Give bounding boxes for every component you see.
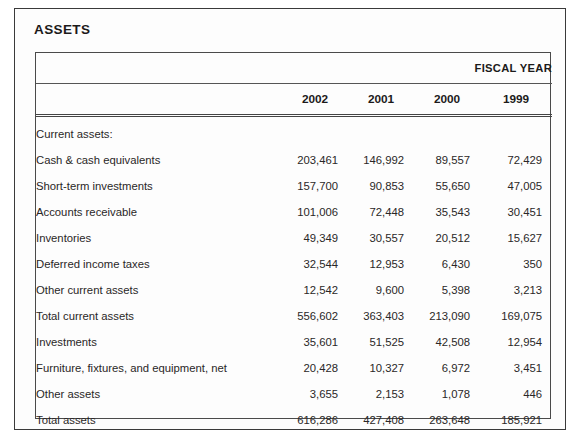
page-frame: ASSETS FISCAL YEAR 2002 2001 2000 bbox=[14, 8, 566, 430]
table-row: Total current assets556,602363,403213,09… bbox=[36, 303, 552, 329]
row-label: Total assets bbox=[36, 407, 282, 433]
assets-table-frame: FISCAL YEAR 2002 2001 2000 1999 Current … bbox=[35, 52, 551, 419]
column-header-2001: 2001 bbox=[348, 84, 414, 116]
row-label: Investments bbox=[36, 329, 282, 355]
cell-2000: 35,543 bbox=[414, 199, 480, 225]
column-header-2000: 2000 bbox=[414, 84, 480, 116]
table-row: Deferred income taxes32,54412,9536,43035… bbox=[36, 251, 552, 277]
table-row: Other assets3,6552,1531,078446 bbox=[36, 381, 552, 407]
cell-2002: 101,006 bbox=[282, 199, 348, 225]
cell-1999: 3,451 bbox=[480, 355, 552, 381]
table-row: Furniture, fixtures, and equipment, net2… bbox=[36, 355, 552, 381]
row-label: Short-term investments bbox=[36, 173, 282, 199]
cell-2002: 556,602 bbox=[282, 303, 348, 329]
cell-2002 bbox=[282, 116, 348, 148]
cell-1999: 12,954 bbox=[480, 329, 552, 355]
cell-2002: 32,544 bbox=[282, 251, 348, 277]
cell-2002: 3,655 bbox=[282, 381, 348, 407]
cell-2002: 35,601 bbox=[282, 329, 348, 355]
table-row: Total assets616,286427,408263,648185,921 bbox=[36, 407, 552, 433]
fiscal-year-label: FISCAL YEAR bbox=[282, 53, 552, 84]
cell-2002: 616,286 bbox=[282, 407, 348, 433]
row-label: Deferred income taxes bbox=[36, 251, 282, 277]
page-title: ASSETS bbox=[34, 22, 90, 37]
cell-2000 bbox=[414, 116, 480, 148]
row-label: Accounts receivable bbox=[36, 199, 282, 225]
cell-2000: 20,512 bbox=[414, 225, 480, 251]
table-row: Accounts receivable101,00672,44835,54330… bbox=[36, 199, 552, 225]
cell-2001: 2,153 bbox=[348, 381, 414, 407]
cell-2000: 263,648 bbox=[414, 407, 480, 433]
row-label: Cash & cash equivalents bbox=[36, 147, 282, 173]
cell-2002: 20,428 bbox=[282, 355, 348, 381]
column-header-1999: 1999 bbox=[480, 84, 552, 116]
row-label: Total current assets bbox=[36, 303, 282, 329]
row-label: Other current assets bbox=[36, 277, 282, 303]
cell-2001: 51,525 bbox=[348, 329, 414, 355]
table-header: FISCAL YEAR 2002 2001 2000 1999 bbox=[36, 53, 552, 116]
row-label: Furniture, fixtures, and equipment, net bbox=[36, 355, 282, 381]
assets-table: FISCAL YEAR 2002 2001 2000 1999 Current … bbox=[36, 53, 552, 433]
cell-2000: 1,078 bbox=[414, 381, 480, 407]
cell-2001: 12,953 bbox=[348, 251, 414, 277]
column-header-2002: 2002 bbox=[282, 84, 348, 116]
cell-2000: 6,972 bbox=[414, 355, 480, 381]
year-header-row: 2002 2001 2000 1999 bbox=[36, 84, 552, 116]
table-row: Other current assets12,5429,6005,3983,21… bbox=[36, 277, 552, 303]
cell-2002: 12,542 bbox=[282, 277, 348, 303]
cell-2001: 427,408 bbox=[348, 407, 414, 433]
cell-2001 bbox=[348, 116, 414, 148]
cell-2001: 363,403 bbox=[348, 303, 414, 329]
cell-1999: 47,005 bbox=[480, 173, 552, 199]
cell-1999: 350 bbox=[480, 251, 552, 277]
cell-2000: 42,508 bbox=[414, 329, 480, 355]
cell-2000: 55,650 bbox=[414, 173, 480, 199]
cell-2001: 9,600 bbox=[348, 277, 414, 303]
fiscal-year-header-row: FISCAL YEAR bbox=[36, 53, 552, 84]
cell-2000: 6,430 bbox=[414, 251, 480, 277]
cell-1999: 30,451 bbox=[480, 199, 552, 225]
cell-1999: 185,921 bbox=[480, 407, 552, 433]
table-row: Inventories49,34930,55720,51215,627 bbox=[36, 225, 552, 251]
row-label: Other assets bbox=[36, 381, 282, 407]
cell-2001: 146,992 bbox=[348, 147, 414, 173]
cell-2000: 89,557 bbox=[414, 147, 480, 173]
cell-1999 bbox=[480, 116, 552, 148]
table-row: Short-term investments157,70090,85355,65… bbox=[36, 173, 552, 199]
cell-2000: 5,398 bbox=[414, 277, 480, 303]
cell-2002: 203,461 bbox=[282, 147, 348, 173]
row-label: Current assets: bbox=[36, 116, 282, 148]
row-label: Inventories bbox=[36, 225, 282, 251]
table-row: Cash & cash equivalents203,461146,99289,… bbox=[36, 147, 552, 173]
cell-2002: 49,349 bbox=[282, 225, 348, 251]
cell-1999: 72,429 bbox=[480, 147, 552, 173]
header-blank-cell bbox=[36, 53, 282, 84]
table-body: Current assets:Cash & cash equivalents20… bbox=[36, 116, 552, 434]
table-row: Investments35,60151,52542,50812,954 bbox=[36, 329, 552, 355]
header-blank-cell-2 bbox=[36, 84, 282, 116]
cell-2001: 30,557 bbox=[348, 225, 414, 251]
cell-1999: 446 bbox=[480, 381, 552, 407]
cell-1999: 169,075 bbox=[480, 303, 552, 329]
cell-2001: 72,448 bbox=[348, 199, 414, 225]
cell-2001: 10,327 bbox=[348, 355, 414, 381]
table-row: Current assets: bbox=[36, 116, 552, 148]
cell-1999: 15,627 bbox=[480, 225, 552, 251]
cell-2002: 157,700 bbox=[282, 173, 348, 199]
cell-1999: 3,213 bbox=[480, 277, 552, 303]
cell-2000: 213,090 bbox=[414, 303, 480, 329]
cell-2001: 90,853 bbox=[348, 173, 414, 199]
